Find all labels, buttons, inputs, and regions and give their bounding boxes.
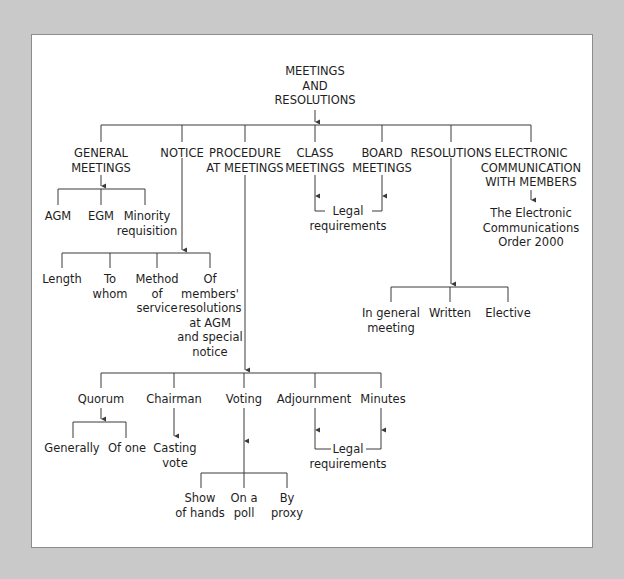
node-by-proxy: By proxy xyxy=(271,491,303,520)
node-meetings-legal-requirements: Legal requirements xyxy=(310,204,387,233)
node-procedure-legal-requirements: Legal requirements xyxy=(310,442,387,471)
node-to-whom: To whom xyxy=(93,272,128,301)
node-length: Length xyxy=(42,272,82,287)
node-procedure-at-meetings: PROCEDURE AT MEETINGS xyxy=(206,146,283,175)
node-electronic-communication: ELECTRONIC COMMUNICATION WITH MEMBERS xyxy=(481,146,581,190)
node-resolutions: RESOLUTIONS xyxy=(410,146,491,161)
node-chairman: Chairman xyxy=(146,392,202,407)
node-electronic-communications-order: The Electronic Communications Order 2000 xyxy=(483,206,580,250)
node-show-of-hands: Show of hands xyxy=(175,491,225,520)
node-on-a-poll: On a poll xyxy=(230,491,257,520)
root-node-meetings-and-resolutions: MEETINGS AND RESOLUTIONS xyxy=(274,64,355,108)
node-class-meetings: CLASS MEETINGS xyxy=(285,146,345,175)
node-egm: EGM xyxy=(88,209,114,224)
node-quorum: Quorum xyxy=(78,392,125,407)
node-minority-requisition: Minority requisition xyxy=(117,209,178,238)
node-members-resolutions: Of members' resolutions at AGM and speci… xyxy=(177,272,242,359)
node-in-general-meeting: In general meeting xyxy=(362,306,420,335)
node-board-meetings: BOARD MEETINGS xyxy=(352,146,412,175)
node-written: Written xyxy=(429,306,471,321)
node-voting: Voting xyxy=(226,392,262,407)
node-minutes: Minutes xyxy=(360,392,405,407)
node-casting-vote: Casting vote xyxy=(153,441,196,470)
node-notice: NOTICE xyxy=(160,146,203,161)
node-agm: AGM xyxy=(45,209,72,224)
node-of-one: Of one xyxy=(108,441,146,456)
node-adjournment: Adjournment xyxy=(277,392,351,407)
node-generally: Generally xyxy=(44,441,99,456)
node-method-of-service: Method of service xyxy=(135,272,178,316)
node-general-meetings: GENERAL MEETINGS xyxy=(71,146,131,175)
node-elective: Elective xyxy=(485,306,530,321)
